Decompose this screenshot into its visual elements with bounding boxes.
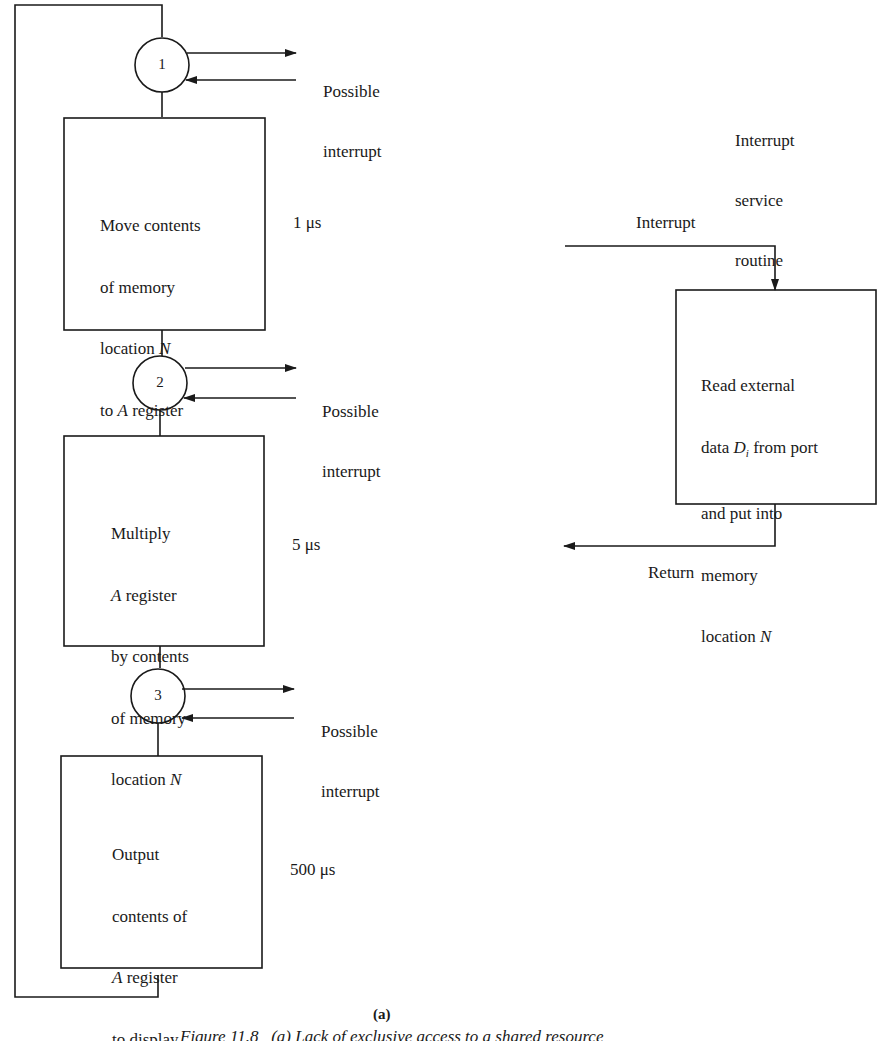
- step-2-duration: 5 μs: [292, 535, 320, 555]
- step-2-line: A register: [111, 586, 189, 607]
- isr-title-line: routine: [735, 251, 794, 271]
- interrupt-label-1-line2: interrupt: [323, 142, 382, 162]
- step-2-line: of memory: [111, 709, 189, 730]
- step-2-text: Multiply A register by contents of memor…: [111, 483, 189, 811]
- isr-entry-label: Interrupt: [636, 213, 695, 233]
- step-2-line: by contents: [111, 647, 189, 668]
- checkpoint-label-1: 1: [152, 56, 172, 73]
- isr-title-line: Interrupt: [735, 131, 794, 151]
- isr-box-line: memory: [701, 566, 818, 587]
- isr-title-line: service: [735, 191, 794, 211]
- isr-box-line: and put into: [701, 504, 818, 525]
- step-3-text: Output contents of A register to display…: [112, 804, 187, 1041]
- step-1-line: location N: [100, 339, 201, 360]
- step-2-line: location N: [111, 770, 189, 791]
- figure-caption: Figure 11.8 (a) Lack of exclusive access…: [180, 1027, 603, 1041]
- interrupt-label-2-line1: Possible: [322, 402, 381, 422]
- isr-title: Interrupt service routine: [735, 91, 794, 291]
- interrupt-label-2-line2: interrupt: [322, 462, 381, 482]
- step-3-line: Output: [112, 845, 187, 866]
- isr-box-line: data Di from port: [701, 438, 818, 464]
- step-1-text: Move contents of memory location N to A …: [100, 175, 201, 442]
- isr-box-line: location N: [701, 627, 818, 648]
- step-3-line: contents of: [112, 907, 187, 928]
- interrupt-label-1-line1: Possible: [323, 82, 382, 102]
- step-1-duration: 1 μs: [293, 213, 321, 233]
- isr-box-line: Read external: [701, 376, 818, 397]
- step-2-line: Multiply: [111, 524, 189, 545]
- interrupt-label-3: Possible interrupt: [321, 682, 380, 822]
- step-1-line: Move contents: [100, 216, 201, 237]
- interrupt-label-2: Possible interrupt: [322, 362, 381, 502]
- step-3-line: to display: [112, 1030, 187, 1041]
- step-3-duration: 500 μs: [290, 860, 335, 880]
- subfigure-label: (a): [373, 1006, 391, 1023]
- step-1-line: to A register: [100, 401, 201, 422]
- step-3-line: A register: [112, 968, 187, 989]
- isr-exit-label: Return: [648, 563, 694, 583]
- interrupt-label-3-line2: interrupt: [321, 782, 380, 802]
- interrupt-label-1: Possible interrupt: [323, 42, 382, 182]
- interrupt-label-3-line1: Possible: [321, 722, 380, 742]
- step-1-line: of memory: [100, 278, 201, 299]
- isr-box-text: Read external data Di from port and put …: [701, 335, 818, 668]
